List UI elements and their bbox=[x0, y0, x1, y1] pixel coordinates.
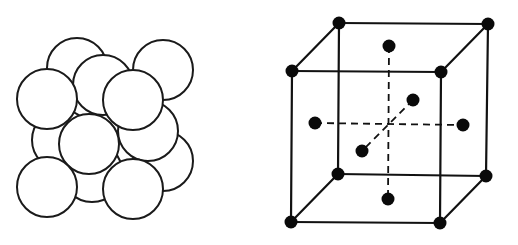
dashed-vertical-axis bbox=[388, 46, 389, 199]
edge-front_top_right-front_bottom_right bbox=[440, 72, 441, 223]
edge-back_bottom_left-back_bottom_right bbox=[338, 174, 486, 176]
corner-atom-back_top_left bbox=[333, 17, 346, 30]
sphere-front-top-right bbox=[103, 70, 163, 130]
corner-atom-front_bottom_left bbox=[285, 216, 298, 229]
sphere-bottom-left-front bbox=[17, 157, 77, 217]
face-atom-top bbox=[383, 40, 396, 53]
edge-front_bottom_right-back_bottom_right bbox=[440, 176, 486, 223]
corner-atom-back_bottom_left bbox=[332, 168, 345, 181]
edge-back_top_right-back_bottom_right bbox=[486, 24, 488, 176]
edge-front_bottom_left-front_bottom_right bbox=[291, 222, 440, 223]
face-atom-back bbox=[407, 94, 420, 107]
corner-atom-front_bottom_right bbox=[434, 217, 447, 230]
edge-front_top_left-front_bottom_left bbox=[291, 71, 292, 222]
close-packed-spheres bbox=[17, 38, 193, 219]
corner-atom-front_top_left bbox=[286, 65, 299, 78]
edge-front_top_right-back_top_right bbox=[441, 24, 488, 72]
face-atom-bottom bbox=[382, 193, 395, 206]
edge-back_top_left-back_bottom_left bbox=[338, 23, 339, 174]
fcc-unit-cell bbox=[285, 17, 495, 230]
sphere-front-top-left bbox=[17, 69, 77, 129]
edge-front_top_left-front_top_right bbox=[292, 71, 441, 72]
face-atom-left bbox=[309, 117, 322, 130]
corner-atom-back_top_right bbox=[482, 18, 495, 31]
face-atom-front bbox=[356, 145, 369, 158]
sphere-bottom-right-front bbox=[103, 159, 163, 219]
corner-atom-back_bottom_right bbox=[480, 170, 493, 183]
edge-back_top_left-back_top_right bbox=[339, 23, 488, 24]
corner-atom-front_top_right bbox=[435, 66, 448, 79]
edge-front_top_left-back_top_left bbox=[292, 23, 339, 71]
edge-front_bottom_left-back_bottom_left bbox=[291, 174, 338, 222]
face-atom-right bbox=[457, 119, 470, 132]
crystal-structure-figure bbox=[0, 0, 518, 245]
